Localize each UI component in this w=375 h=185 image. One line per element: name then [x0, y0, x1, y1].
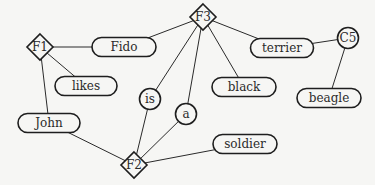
node-john: John: [18, 114, 80, 133]
node-label: John: [33, 116, 63, 130]
edge-f3-is: [150, 17, 203, 99]
node-is: is: [140, 89, 161, 110]
node-label: F3: [195, 10, 211, 24]
node-label: a: [182, 107, 189, 121]
node-label: likes: [72, 79, 100, 93]
edge-f3-a: [186, 17, 203, 114]
node-layer: F1F2F3C5isaFidolikesJohnterrierblackbeag…: [18, 4, 361, 178]
node-label: Fido: [110, 40, 137, 54]
node-a: a: [176, 104, 197, 125]
node-label: C5: [340, 31, 357, 45]
node-label: black: [228, 80, 261, 94]
node-label: F2: [126, 158, 142, 172]
node-fido: Fido: [92, 38, 156, 57]
node-black: black: [212, 78, 276, 97]
node-label: beagle: [309, 91, 350, 105]
diagram-canvas: F1F2F3C5isaFidolikesJohnterrierblackbeag…: [0, 0, 375, 185]
node-label: terrier: [262, 41, 302, 55]
node-f1: F1: [27, 34, 53, 60]
node-label: F1: [32, 40, 48, 54]
semantic-network-diagram: F1F2F3C5isaFidolikesJohnterrierblackbeag…: [0, 0, 375, 185]
node-likes: likes: [55, 77, 117, 96]
node-label: soldier: [224, 137, 266, 151]
node-label: is: [145, 92, 155, 106]
node-beagle: beagle: [297, 89, 361, 108]
node-terrier: terrier: [251, 39, 314, 58]
node-f3: F3: [190, 4, 216, 30]
node-c5: C5: [338, 28, 359, 49]
node-soldier: soldier: [213, 135, 277, 154]
edge-f3-black: [203, 17, 244, 87]
